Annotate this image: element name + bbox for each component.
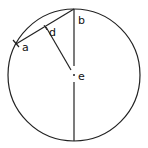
label-b: b [78,14,85,27]
label-d: d [49,26,56,39]
label-a: a [22,41,29,54]
circle-diagram: a b d e [0,0,148,148]
label-e: e [78,70,85,83]
center-point-e [73,74,75,76]
